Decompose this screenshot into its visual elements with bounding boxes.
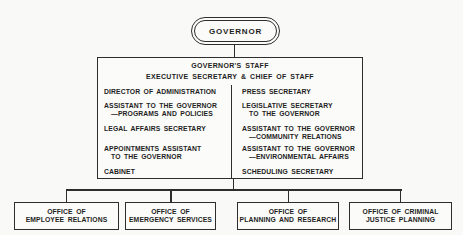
- office-box-line: OFFICE OF: [47, 208, 86, 216]
- staff-item-line: TO THE GOVERNOR: [104, 153, 228, 161]
- connector-branch-to-office-2: [170, 189, 172, 203]
- staff-item-line: SCHEDULING SECRETARY: [242, 168, 360, 176]
- governor-node-inner-border: GOVERNOR: [194, 20, 277, 42]
- office-box-line: EMERGENCY SERVICES: [129, 216, 212, 224]
- connector-governor-to-staff: [234, 45, 236, 57]
- office-box-planning-and-research: OFFICE OF PLANNING AND RESEARCH: [237, 202, 339, 230]
- staff-item-scheduling-secretary: SCHEDULING SECRETARY: [242, 168, 360, 176]
- staff-item-assistant-programs-policies: ASSISTANT TO THE GOVERNOR —PROGRAMS AND …: [104, 102, 228, 118]
- staff-column-right: PRESS SECRETARY LEGISLATIVE SECRETARY TO…: [242, 58, 360, 178]
- office-box-line: PLANNING AND RESEARCH: [240, 216, 337, 224]
- governor-label: GOVERNOR: [209, 27, 262, 36]
- governors-staff-box: GOVERNOR'S STAFF EXECUTIVE SECRETARY & C…: [97, 57, 363, 179]
- office-box-line: JUSTICE PLANNING: [366, 216, 435, 224]
- office-box-line: EMPLOYEE RELATIONS: [26, 216, 108, 224]
- office-box-line: OFFICE OF: [151, 208, 190, 216]
- staff-item-line: —PROGRAMS AND POLICIES: [104, 110, 228, 118]
- connector-branch-to-office-3: [288, 189, 290, 203]
- office-box-line: OFFICE OF: [269, 208, 308, 216]
- staff-item-line: APPOINTMENTS ASSISTANT: [104, 145, 228, 153]
- governor-node: GOVERNOR: [191, 17, 280, 45]
- connector-branch-to-office-1: [66, 189, 68, 203]
- staff-item-appointments-assistant: APPOINTMENTS ASSISTANT TO THE GOVERNOR: [104, 145, 228, 161]
- staff-item-line: —ENVIRONMENTAL AFFAIRS: [242, 153, 360, 161]
- staff-item-assistant-community-relations: ASSISTANT TO THE GOVERNOR —COMMUNITY REL…: [242, 125, 360, 141]
- staff-item-assistant-environmental-affairs: ASSISTANT TO THE GOVERNOR —ENVIRONMENTAL…: [242, 145, 360, 161]
- staff-item-line: DIRECTOR OF ADMINISTRATION: [104, 88, 228, 96]
- staff-column-divider: [231, 85, 232, 178]
- staff-item-press-secretary: PRESS SECRETARY: [242, 88, 360, 96]
- staff-item-line: CABINET: [104, 168, 228, 176]
- staff-item-line: TO THE GOVERNOR: [242, 110, 360, 118]
- staff-item-line: LEGISLATIVE SECRETARY: [242, 102, 360, 110]
- staff-item-legislative-secretary: LEGISLATIVE SECRETARY TO THE GOVERNOR: [242, 102, 360, 118]
- staff-item-line: ASSISTANT TO THE GOVERNOR: [242, 125, 360, 133]
- staff-item-line: PRESS SECRETARY: [242, 88, 360, 96]
- office-box-emergency-services: OFFICE OF EMERGENCY SERVICES: [125, 202, 216, 230]
- staff-item-legal-affairs-secretary: LEGAL AFFAIRS SECRETARY: [104, 125, 228, 133]
- staff-item-line: ASSISTANT TO THE GOVERNOR: [242, 145, 360, 153]
- staff-item-line: —COMMUNITY RELATIONS: [242, 133, 360, 141]
- office-box-employee-relations: OFFICE OF EMPLOYEE RELATIONS: [14, 202, 119, 230]
- office-box-criminal-justice-planning: OFFICE OF CRIMINAL JUSTICE PLANNING: [349, 202, 452, 230]
- connector-branch-horizontal: [66, 189, 402, 191]
- org-chart: GOVERNOR GOVERNOR'S STAFF EXECUTIVE SECR…: [0, 0, 463, 235]
- connector-branch-to-office-4: [400, 189, 402, 203]
- staff-item-line: LEGAL AFFAIRS SECRETARY: [104, 125, 228, 133]
- staff-item-director-of-administration: DIRECTOR OF ADMINISTRATION: [104, 88, 228, 96]
- staff-item-cabinet: CABINET: [104, 168, 228, 176]
- staff-item-line: ASSISTANT TO THE GOVERNOR: [104, 102, 228, 110]
- office-box-line: OFFICE OF CRIMINAL: [363, 208, 439, 216]
- staff-column-left: DIRECTOR OF ADMINISTRATION ASSISTANT TO …: [104, 58, 228, 178]
